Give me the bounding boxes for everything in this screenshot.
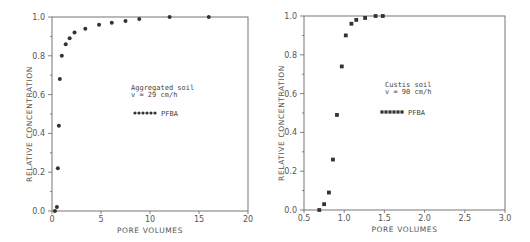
data-point bbox=[58, 77, 62, 81]
left-x-axis: 05101520 bbox=[49, 211, 253, 224]
data-point bbox=[344, 34, 348, 38]
left-x-axis-title: PORE VOLUMES bbox=[117, 226, 183, 235]
data-point bbox=[110, 21, 114, 25]
right-legend-label: PFBA bbox=[408, 109, 426, 117]
x-tick-label: 2.0 bbox=[418, 214, 431, 223]
right-plot-frame bbox=[304, 16, 505, 210]
data-point bbox=[124, 19, 128, 23]
left-chart: 0.00.20.40.60.81.0 05101520 PORE VOLUMES… bbox=[25, 13, 253, 235]
y-tick-label: 0.6 bbox=[32, 91, 45, 100]
right-x-axis: 0.51.01.52.02.53.0 bbox=[298, 210, 512, 223]
x-tick-label: 1.0 bbox=[338, 214, 351, 223]
x-tick-label: 0 bbox=[49, 215, 54, 224]
right-chart: 0.00.20.40.60.81.0 0.51.01.52.02.53.0 PO… bbox=[277, 12, 511, 234]
data-point bbox=[57, 124, 61, 128]
data-point bbox=[73, 31, 77, 35]
x-tick-label: 10 bbox=[145, 215, 155, 224]
right-y-axis-title: RELATIVE CONCENTRATION bbox=[277, 65, 286, 181]
data-point bbox=[55, 205, 59, 209]
figure: 0.00.20.40.60.81.0 05101520 PORE VOLUMES… bbox=[0, 0, 530, 242]
right-data-points bbox=[317, 14, 384, 212]
data-point bbox=[53, 209, 57, 213]
left-annotation-velocity: v = 29 cm/h bbox=[131, 91, 177, 99]
left-data-points bbox=[53, 15, 211, 213]
right-legend-marker-square-icon bbox=[380, 110, 403, 113]
y-tick-label: 0.0 bbox=[32, 207, 45, 216]
x-tick-label: 0.5 bbox=[298, 214, 311, 223]
data-point bbox=[317, 208, 321, 212]
y-tick-label: 1.0 bbox=[32, 13, 45, 22]
y-tick-label: 0.4 bbox=[284, 128, 297, 137]
right-y-axis: 0.00.20.40.60.81.0 bbox=[284, 12, 304, 215]
data-point bbox=[340, 65, 344, 69]
data-point bbox=[322, 202, 326, 206]
data-point bbox=[137, 17, 141, 21]
y-tick-label: 0.2 bbox=[284, 167, 297, 176]
data-point bbox=[331, 158, 335, 162]
y-tick-label: 1.0 bbox=[284, 12, 297, 21]
left-legend-label: PFBA bbox=[161, 110, 179, 118]
data-point bbox=[327, 191, 331, 195]
y-tick-label: 0.4 bbox=[32, 129, 45, 138]
data-point bbox=[64, 42, 68, 46]
data-point bbox=[68, 36, 72, 40]
data-point bbox=[354, 18, 358, 22]
x-tick-label: 15 bbox=[194, 215, 204, 224]
y-tick-label: 0.0 bbox=[284, 206, 297, 215]
right-x-axis-title: PORE VOLUMES bbox=[371, 225, 437, 234]
x-tick-label: 2.5 bbox=[458, 214, 471, 223]
right-annotation-velocity: v = 90 cm/h bbox=[385, 88, 431, 96]
y-tick-label: 0.2 bbox=[32, 168, 45, 177]
data-point bbox=[83, 27, 87, 31]
data-point bbox=[350, 22, 354, 26]
y-tick-label: 0.8 bbox=[284, 51, 297, 60]
data-point bbox=[335, 113, 339, 117]
left-y-axis: 0.00.20.40.60.81.0 bbox=[32, 13, 52, 216]
y-tick-label: 0.6 bbox=[284, 90, 297, 99]
x-tick-label: 3.0 bbox=[499, 214, 512, 223]
data-point bbox=[60, 54, 64, 58]
left-legend-marker-circle-icon bbox=[133, 111, 156, 114]
data-point bbox=[363, 16, 367, 20]
data-point bbox=[168, 15, 172, 19]
data-point bbox=[381, 14, 385, 18]
x-tick-label: 20 bbox=[243, 215, 253, 224]
left-y-axis-title: RELATIVE CONCENTRATION bbox=[25, 66, 34, 182]
data-point bbox=[207, 15, 211, 19]
data-point bbox=[56, 166, 60, 170]
y-tick-label: 0.8 bbox=[32, 52, 45, 61]
data-point bbox=[97, 23, 101, 27]
x-tick-label: 5 bbox=[98, 215, 103, 224]
data-point bbox=[374, 14, 378, 18]
x-tick-label: 1.5 bbox=[378, 214, 391, 223]
